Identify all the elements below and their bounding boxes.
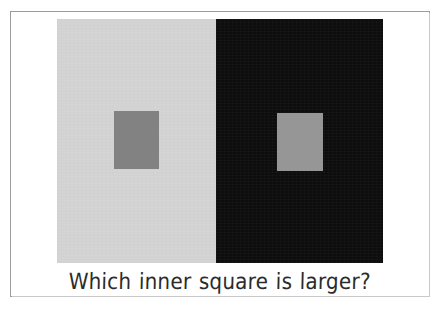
light-surround-panel (57, 19, 216, 263)
figure-root: Which inner square is larger? (0, 0, 442, 312)
figure-border: Which inner square is larger? (10, 11, 430, 297)
dark-surround-panel (216, 19, 383, 263)
figure-caption: Which inner square is larger? (10, 268, 429, 295)
left-inner-square[interactable] (114, 111, 159, 169)
stimulus-image (57, 19, 383, 263)
right-inner-square[interactable] (277, 113, 323, 171)
